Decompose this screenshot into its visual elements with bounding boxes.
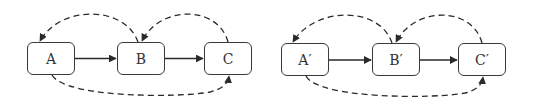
node-b-label: B [136,51,146,67]
diagram-canvas: A B C A′ B′ C′ [0,0,534,102]
node-a: A [27,42,75,75]
node-b: B [117,42,165,75]
dashed-edge-b-to-a [40,14,138,42]
node-b-prime-label: B′ [389,52,402,68]
dashed-edge-a-prime-to-c-prime [306,76,483,96]
node-a-prime-label: A′ [298,52,311,68]
node-c-prime-label: C′ [475,52,489,68]
node-c-label: C [223,51,234,67]
node-c: C [204,42,252,75]
dashed-edge-b-prime-to-a-prime [293,15,392,43]
dashed-edge-c-to-b [142,14,228,42]
edges-layer [0,0,534,102]
node-b-prime: B′ [372,43,420,76]
node-c-prime: C′ [458,43,506,76]
dashed-edge-c-prime-to-b-prime [396,15,482,43]
node-a-prime: A′ [281,43,329,76]
dashed-edge-a-to-c [52,75,229,95]
node-a-label: A [46,51,56,67]
